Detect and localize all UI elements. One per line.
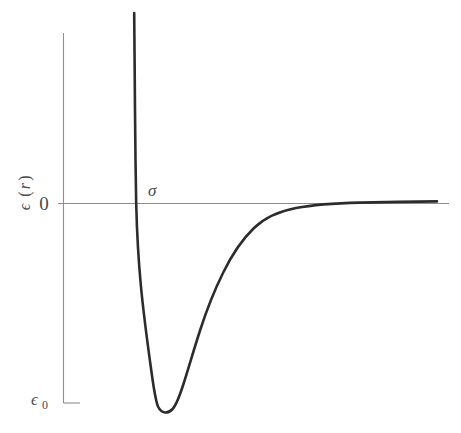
y-axis-label-paren-close: )	[16, 175, 34, 180]
y-axis-label-r: r	[16, 182, 33, 189]
lennard-jones-potential-figure: ϵ ( r ) 0 σ ϵ 0	[0, 0, 461, 433]
epsilon0-label-group: ϵ 0	[31, 390, 48, 412]
epsilon0-subscript: 0	[42, 398, 48, 412]
sigma-annotation-label: σ	[148, 181, 157, 200]
plot-canvas: ϵ ( r ) 0 σ ϵ 0	[0, 0, 461, 433]
y-axis-label-epsilon: ϵ	[16, 203, 33, 210]
potential-curve-path	[134, 13, 437, 412]
y-axis-label-paren-open: (	[16, 191, 34, 196]
epsilon0-label: ϵ	[31, 390, 39, 409]
zero-tick-label: 0	[39, 193, 49, 214]
y-axis-label-group: ϵ ( r )	[16, 175, 34, 210]
